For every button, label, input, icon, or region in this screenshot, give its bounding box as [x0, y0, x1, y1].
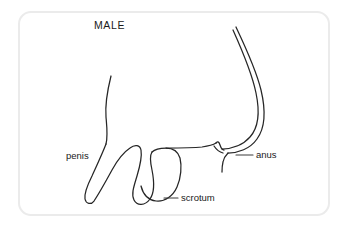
penis-outline — [85, 144, 154, 204]
anatomy-line-drawing: MALE penis anus scrotum — [0, 0, 347, 233]
label-penis: penis — [66, 150, 89, 161]
abdomen-front-line — [106, 76, 111, 144]
anus-tick-mark — [222, 153, 228, 172]
male-anatomy-figure: MALE penis anus scrotum — [0, 0, 347, 233]
anatomy-outline-group — [85, 27, 264, 204]
figure-title: MALE — [94, 19, 125, 31]
label-anus: anus — [256, 149, 277, 160]
buttock-inner-curve — [222, 30, 258, 149]
buttock-outer-curve — [228, 27, 264, 153]
perineum-line — [166, 143, 216, 148]
label-scrotum: scrotum — [181, 192, 215, 203]
scrotum-outline — [141, 148, 181, 201]
